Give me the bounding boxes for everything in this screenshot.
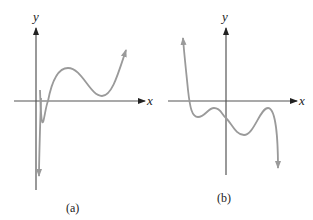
panel-b: y x (b): [168, 9, 305, 205]
caption-b: (b): [217, 191, 231, 205]
curve-a: [40, 50, 126, 122]
caption-a: (a): [66, 201, 79, 215]
figure-canvas: y x (a) y x (b): [0, 0, 313, 220]
panel-a: y x (a): [14, 9, 153, 215]
curve-b: [188, 90, 278, 168]
y-axis-label-a: y: [31, 9, 39, 24]
curve-a-tail: [39, 98, 41, 176]
curve-b-head: [183, 38, 188, 90]
y-axis-label-b: y: [220, 9, 228, 24]
x-axis-label-b: x: [298, 93, 305, 108]
x-axis-label-a: x: [146, 93, 153, 108]
